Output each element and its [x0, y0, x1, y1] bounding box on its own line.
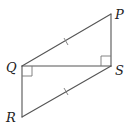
geometry-diagram: P Q S R: [0, 0, 133, 126]
label-p: P: [114, 7, 124, 22]
label-s: S: [115, 63, 124, 78]
right-angle-marker-s: [101, 56, 111, 66]
right-angle-marker-q: [22, 66, 32, 76]
segment-pq: [22, 14, 111, 66]
label-q: Q: [6, 60, 17, 75]
label-r: R: [5, 110, 16, 125]
